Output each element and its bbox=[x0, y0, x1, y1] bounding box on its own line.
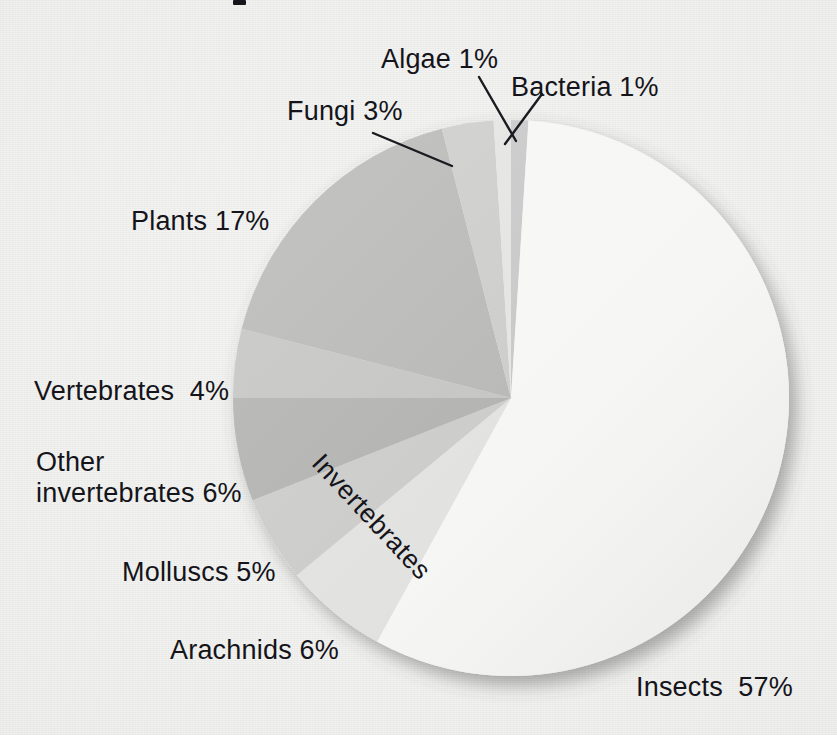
pie-sheen-overlay bbox=[233, 120, 789, 676]
slice-label-bacteria: Bacteria 1% bbox=[511, 72, 659, 102]
pie-chart bbox=[0, 0, 837, 735]
slice-label-arachnids: Arachnids 6% bbox=[170, 635, 339, 665]
slice-label-other-invertebrates-line2: invertebrates 6% bbox=[36, 478, 242, 508]
slice-label-algae: Algae 1% bbox=[381, 44, 498, 74]
pie-chart-page: Algae 1% Bacteria 1% Fungi 3% Plants 17%… bbox=[0, 0, 837, 735]
slice-label-vertebrates: Vertebrates 4% bbox=[34, 376, 229, 406]
slice-label-insects: Insects 57% bbox=[636, 672, 793, 702]
slice-label-molluscs: Molluscs 5% bbox=[122, 557, 276, 587]
slice-label-fungi: Fungi 3% bbox=[287, 96, 403, 126]
slice-label-other-invertebrates-line1: Other bbox=[36, 447, 105, 477]
slice-label-plants: Plants 17% bbox=[131, 206, 270, 236]
